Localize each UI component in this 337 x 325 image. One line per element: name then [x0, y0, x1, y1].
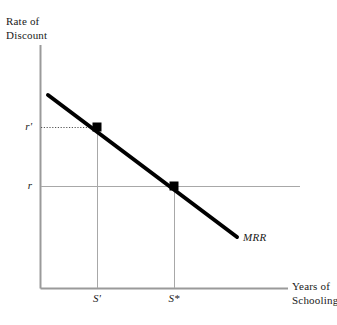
- point-r-s-star: [170, 182, 179, 191]
- y-axis-title: Rate of Discount: [6, 14, 47, 42]
- y-tick-label-r-prime: r': [10, 120, 32, 132]
- y-tick-label-r: r: [10, 179, 32, 191]
- economics-diagram-mrr: Rate of Discount Years of Schooling r' r…: [0, 0, 337, 325]
- curve-label-mrr: MRR: [243, 231, 267, 243]
- point-r-prime-s-prime: [93, 123, 102, 132]
- x-tick-label-s-star: S*: [161, 292, 187, 304]
- x-axis-title: Years of Schooling: [292, 279, 337, 307]
- x-tick-label-s-prime: S': [84, 292, 110, 304]
- plot-area: [0, 0, 337, 325]
- mrr-curve: [48, 95, 237, 237]
